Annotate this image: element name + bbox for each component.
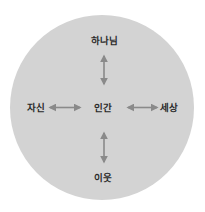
node-top-label: 하나님 — [91, 36, 118, 46]
node-bottom-label: 이웃 — [94, 173, 112, 183]
center-label: 인간 — [94, 103, 112, 113]
node-right-label: 세상 — [160, 103, 178, 113]
node-left-label: 자신 — [27, 103, 45, 113]
